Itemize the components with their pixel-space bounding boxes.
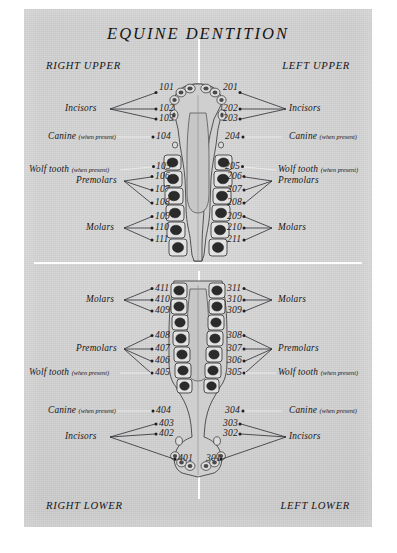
tooth-number-104[interactable]: 104 (156, 130, 171, 141)
tooth-number-301[interactable]: 301 (206, 452, 221, 463)
tooth-number-309[interactable]: 309 (227, 304, 242, 315)
tooth-number-207[interactable]: 207 (227, 183, 242, 194)
group-label-molars-left-upper: Molars (278, 222, 306, 232)
horizontal-divider-rule (34, 262, 362, 264)
group-label-incisors-left-upper: Incisors (289, 103, 321, 113)
group-label-premolars-right-lower: Premolars (76, 343, 117, 353)
tooth-number-302[interactable]: 302 (223, 427, 238, 438)
vertical-midline-rule (198, 39, 200, 261)
tooth-number-311[interactable]: 311 (227, 282, 241, 293)
group-label-premolars-left-lower: Premolars (278, 343, 319, 353)
tooth-number-304[interactable]: 304 (225, 404, 240, 415)
group-label-wolf-tooth-right-upper: Wolf tooth (when present) (29, 164, 109, 174)
leader-lines-right-upper (110, 91, 158, 242)
group-label-molars-right-lower: Molars (86, 294, 114, 304)
wolf-tooth-when-present-note: (when present) (321, 369, 358, 376)
quadrant-label-left-upper: LEFT UPPER (282, 60, 350, 71)
tooth-number-107[interactable]: 107 (155, 183, 170, 194)
tooth-number-306[interactable]: 306 (227, 354, 242, 365)
tooth-number-308[interactable]: 308 (227, 329, 242, 340)
wolf-tooth-when-present-note: (when present) (321, 166, 358, 173)
tooth-number-106[interactable]: 106 (155, 170, 170, 181)
tooth-number-210[interactable]: 210 (227, 221, 242, 232)
tooth-number-407[interactable]: 407 (155, 342, 170, 353)
group-label-canine-right-lower: Canine (when present) (48, 405, 116, 415)
group-label-canine-right-upper: Canine (when present) (48, 131, 116, 141)
canine-when-present-note: (when present) (320, 133, 357, 140)
group-label-incisors-left-lower: Incisors (289, 431, 321, 441)
tooth-number-111[interactable]: 111 (155, 233, 168, 244)
canine-when-present-note: (when present) (79, 133, 116, 140)
tooth-number-409[interactable]: 409 (155, 304, 170, 315)
tooth-number-307[interactable]: 307 (227, 342, 242, 353)
group-label-wolf-tooth-left-lower: Wolf tooth (when present) (278, 367, 358, 377)
lower-cheek-teeth-left (204, 283, 225, 393)
tooth-number-310[interactable]: 310 (227, 293, 242, 304)
tooth-number-305[interactable]: 305 (227, 366, 242, 377)
group-label-premolars-right-upper: Premolars (76, 175, 117, 185)
tooth-number-203[interactable]: 203 (223, 112, 238, 123)
tooth-number-101[interactable]: 101 (159, 81, 174, 92)
tooth-number-209[interactable]: 209 (227, 210, 242, 221)
tooth-number-208[interactable]: 208 (227, 196, 242, 207)
group-label-incisors-right-upper: Incisors (65, 103, 97, 113)
tooth-number-405[interactable]: 405 (155, 366, 170, 377)
tooth-number-108[interactable]: 108 (155, 196, 170, 207)
tooth-number-406[interactable]: 406 (155, 354, 170, 365)
wolf-tooth-when-present-note: (when present) (72, 166, 109, 173)
group-label-canine-left-upper: Canine (when present) (289, 131, 357, 141)
lower-cheek-teeth-right (171, 283, 192, 393)
tooth-number-103[interactable]: 103 (159, 112, 174, 123)
quadrant-label-right-lower: RIGHT LOWER (46, 500, 123, 511)
group-label-premolars-left-upper: Premolars (278, 175, 319, 185)
group-label-incisors-right-lower: Incisors (65, 431, 97, 441)
group-label-canine-left-lower: Canine (when present) (289, 405, 357, 415)
canine-when-present-note: (when present) (79, 407, 116, 414)
tooth-number-410[interactable]: 410 (155, 293, 170, 304)
tooth-number-109[interactable]: 109 (155, 210, 170, 221)
quadrant-label-right-upper: RIGHT UPPER (46, 60, 121, 71)
tooth-number-204[interactable]: 204 (225, 130, 240, 141)
group-label-molars-right-upper: Molars (86, 222, 114, 232)
tooth-number-110[interactable]: 110 (155, 221, 169, 232)
group-label-wolf-tooth-left-upper: Wolf tooth (when present) (278, 164, 358, 174)
tooth-number-401[interactable]: 401 (178, 452, 193, 463)
dentition-plate: EQUINE DENTITION RIGHT UPPER LEFT UPPER … (24, 9, 372, 527)
tooth-number-211[interactable]: 211 (227, 233, 241, 244)
group-label-molars-left-lower: Molars (278, 294, 306, 304)
tooth-number-402[interactable]: 402 (159, 427, 174, 438)
vertical-midline-rule-lower (198, 271, 200, 499)
tooth-number-411[interactable]: 411 (155, 282, 169, 293)
tooth-number-404[interactable]: 404 (156, 404, 171, 415)
tooth-number-206[interactable]: 206 (227, 170, 242, 181)
canine-when-present-note: (when present) (320, 407, 357, 414)
wolf-tooth-when-present-note: (when present) (72, 369, 109, 376)
plate-page: EQUINE DENTITION RIGHT UPPER LEFT UPPER … (0, 0, 397, 553)
group-label-wolf-tooth-right-lower: Wolf tooth (when present) (29, 367, 109, 377)
tooth-number-201[interactable]: 201 (223, 81, 238, 92)
tooth-number-408[interactable]: 408 (155, 329, 170, 340)
quadrant-label-left-lower: LEFT LOWER (281, 500, 351, 511)
